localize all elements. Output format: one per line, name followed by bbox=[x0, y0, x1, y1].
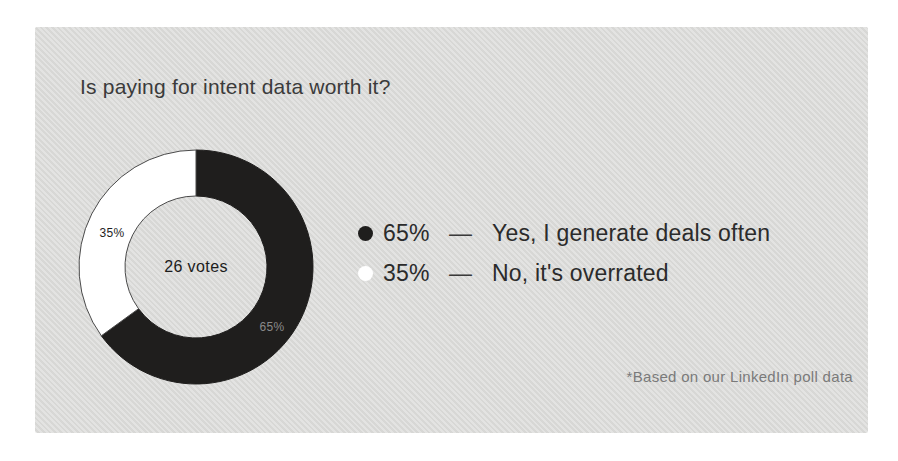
source-footnote: *Based on our LinkedIn poll data bbox=[627, 368, 853, 385]
slice-label-no: 35% bbox=[100, 226, 125, 240]
legend-label-yes: Yes, I generate deals often bbox=[492, 220, 770, 247]
poll-title: Is paying for intent data worth it? bbox=[80, 75, 391, 99]
yes-swatch-icon bbox=[358, 226, 373, 241]
dash-separator: — bbox=[449, 260, 472, 287]
slice-label-yes: 65% bbox=[260, 320, 285, 334]
no-swatch-icon bbox=[358, 266, 373, 281]
legend-label-no: No, it's overrated bbox=[492, 260, 669, 287]
legend-row-no: 35% — No, it's overrated bbox=[358, 253, 770, 293]
poll-card: Is paying for intent data worth it? 35% … bbox=[35, 27, 868, 433]
legend-percent-yes: 65% bbox=[383, 220, 435, 247]
page-background: Is paying for intent data worth it? 35% … bbox=[0, 0, 898, 461]
dash-separator: — bbox=[449, 220, 472, 247]
donut-slice bbox=[79, 150, 196, 336]
donut-chart-area: 35% 65% 26 votes bbox=[76, 147, 316, 387]
legend: 65% — Yes, I generate deals often 35% — … bbox=[358, 213, 770, 293]
total-votes-label: 26 votes bbox=[164, 258, 228, 276]
legend-row-yes: 65% — Yes, I generate deals often bbox=[358, 213, 770, 253]
legend-percent-no: 35% bbox=[383, 260, 435, 287]
